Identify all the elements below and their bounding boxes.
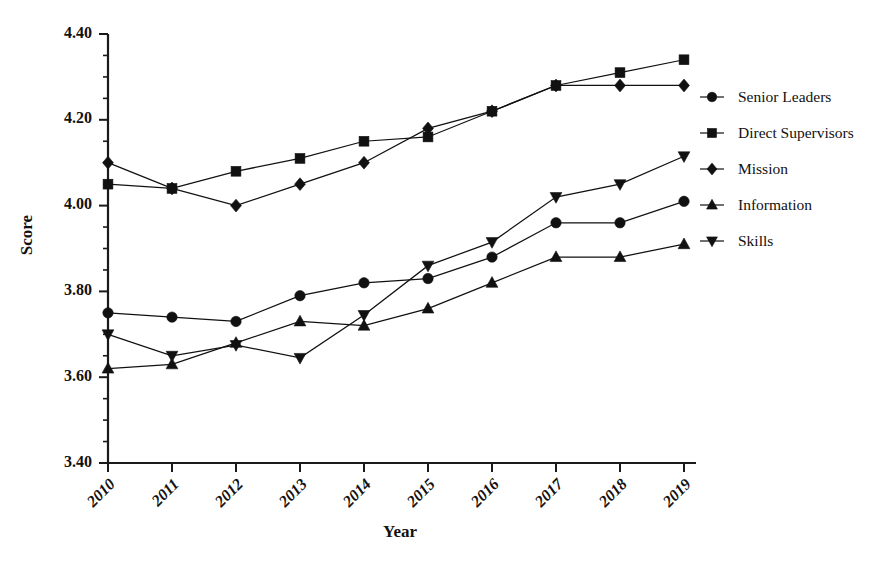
data-point bbox=[679, 196, 689, 206]
data-point bbox=[679, 79, 690, 92]
x-tick-label: 2016 bbox=[467, 475, 502, 510]
data-point bbox=[103, 179, 113, 189]
data-point bbox=[294, 353, 306, 364]
data-point bbox=[486, 277, 498, 288]
legend-item-senior-leaders: Senior Leaders bbox=[700, 88, 831, 105]
legend-item-skills: Skills bbox=[700, 232, 773, 249]
data-point bbox=[359, 136, 369, 146]
data-point bbox=[103, 308, 113, 318]
data-point bbox=[679, 55, 689, 65]
legend-marker bbox=[707, 237, 718, 247]
axes bbox=[108, 34, 696, 463]
x-tick-label: 2014 bbox=[339, 475, 374, 510]
series-mission bbox=[103, 79, 690, 212]
data-point bbox=[551, 218, 561, 228]
y-axis-tick-labels: 3.403.603.804.004.204.40 bbox=[64, 24, 92, 470]
series-line bbox=[108, 244, 684, 368]
data-point bbox=[359, 156, 370, 169]
y-axis-title: Score bbox=[17, 214, 36, 255]
series-line bbox=[108, 85, 684, 205]
axis-lines bbox=[108, 34, 696, 463]
x-tick-label: 2012 bbox=[211, 475, 246, 510]
legend-label: Mission bbox=[738, 160, 788, 177]
axis-ticks bbox=[99, 34, 684, 472]
x-tick-label: 2019 bbox=[659, 475, 694, 510]
series-line bbox=[108, 201, 684, 321]
x-tick-label: 2010 bbox=[83, 475, 118, 510]
legend-marker bbox=[707, 163, 717, 175]
y-tick-label: 4.40 bbox=[64, 24, 92, 41]
legend-label: Information bbox=[738, 196, 812, 213]
data-point bbox=[615, 218, 625, 228]
data-point bbox=[550, 193, 562, 204]
data-point bbox=[550, 251, 562, 262]
line-chart: 3.403.603.804.004.204.40 201020112012201… bbox=[0, 0, 884, 562]
series-direct-supervisors bbox=[103, 55, 689, 194]
data-point bbox=[358, 311, 370, 322]
legend-marker bbox=[707, 92, 717, 102]
y-tick-label: 3.80 bbox=[64, 281, 92, 298]
data-point bbox=[167, 312, 177, 322]
x-tick-label: 2018 bbox=[595, 475, 630, 510]
data-point bbox=[231, 166, 241, 176]
x-axis-title: Year bbox=[383, 522, 417, 541]
legend-marker bbox=[707, 199, 718, 209]
data-point bbox=[422, 261, 434, 272]
x-tick-label: 2017 bbox=[531, 474, 567, 510]
x-tick-label: 2015 bbox=[403, 475, 438, 510]
data-point bbox=[295, 154, 305, 164]
data-point bbox=[678, 238, 690, 249]
legend-item-mission: Mission bbox=[700, 160, 788, 177]
data-point bbox=[295, 178, 306, 191]
data-point bbox=[359, 278, 369, 288]
data-series bbox=[102, 55, 690, 373]
legend-label: Direct Supervisors bbox=[738, 124, 854, 141]
chart-page: 3.403.603.804.004.204.40 201020112012201… bbox=[0, 0, 884, 562]
y-tick-label: 4.20 bbox=[64, 109, 92, 126]
data-point bbox=[231, 199, 242, 212]
legend-item-information: Information bbox=[700, 196, 812, 213]
data-point bbox=[231, 316, 241, 326]
data-point bbox=[103, 156, 114, 169]
data-point bbox=[615, 79, 626, 92]
y-tick-label: 4.00 bbox=[64, 195, 92, 212]
data-point bbox=[294, 315, 306, 326]
data-point bbox=[615, 68, 625, 78]
data-point bbox=[295, 290, 305, 300]
series-senior-leaders bbox=[103, 196, 689, 327]
legend-label: Skills bbox=[738, 232, 773, 249]
x-axis-tick-labels: 2010201120122013201420152016201720182019 bbox=[83, 474, 694, 510]
data-point bbox=[422, 302, 434, 313]
data-point bbox=[487, 252, 497, 262]
legend-label: Senior Leaders bbox=[738, 88, 831, 105]
legend-marker bbox=[707, 128, 716, 137]
x-tick-label: 2013 bbox=[275, 475, 310, 510]
data-point bbox=[423, 273, 433, 283]
chart-legend: Senior LeadersDirect SupervisorsMissionI… bbox=[700, 88, 854, 249]
y-tick-label: 3.60 bbox=[64, 367, 92, 384]
legend-item-direct-supervisors: Direct Supervisors bbox=[700, 124, 854, 141]
data-point bbox=[166, 351, 178, 362]
x-tick-label: 2011 bbox=[147, 475, 182, 510]
data-point bbox=[678, 152, 690, 163]
series-line bbox=[108, 60, 684, 189]
y-tick-label: 3.40 bbox=[64, 453, 92, 470]
